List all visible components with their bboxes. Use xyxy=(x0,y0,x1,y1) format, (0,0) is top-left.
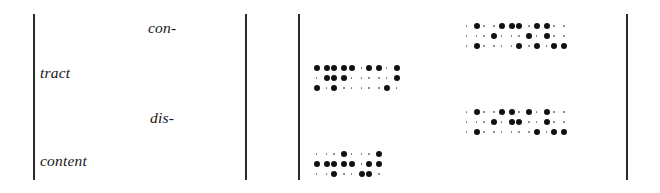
braille-dot-raised-6 xyxy=(561,43,567,49)
braille-dot-raised-1 xyxy=(366,65,372,71)
braille-dot-empty-6 xyxy=(343,173,345,175)
braille-dot-empty-5 xyxy=(563,35,565,37)
braille-dot-empty-6 xyxy=(493,131,495,133)
braille-cell xyxy=(550,108,561,138)
braille-dot-empty-3 xyxy=(466,131,468,133)
braille-dot-empty-1 xyxy=(518,111,520,113)
braille-dot-empty-3 xyxy=(501,45,503,47)
braille-dot-empty-3 xyxy=(483,45,485,47)
braille-cell xyxy=(365,150,376,180)
braille-dot-empty-1 xyxy=(466,111,468,113)
braille-dot-empty-1 xyxy=(368,153,370,155)
braille-cell xyxy=(330,150,341,180)
braille-dot-empty-5 xyxy=(378,77,380,79)
braille-dot-empty-1 xyxy=(553,25,555,27)
braille-dot-empty-4 xyxy=(563,111,565,113)
braille-dot-empty-3 xyxy=(518,131,520,133)
braille-cell xyxy=(312,64,323,94)
braille-dot-raised-2 xyxy=(349,161,355,167)
braille-dot-empty-2 xyxy=(518,35,520,37)
braille-cell xyxy=(312,150,323,180)
braille-example-figure: con- tract dis- content xyxy=(0,0,660,193)
braille-dot-empty-1 xyxy=(333,153,335,155)
braille-dot-empty-6 xyxy=(511,45,513,47)
braille-dot-empty-3 xyxy=(466,45,468,47)
braille-dot-raised-1 xyxy=(314,65,320,71)
braille-dot-empty-6 xyxy=(361,87,363,89)
braille-dot-empty-4 xyxy=(493,111,495,113)
braille-dot-empty-4 xyxy=(361,67,363,69)
braille-dot-raised-2 xyxy=(331,161,337,167)
braille-cell xyxy=(330,64,341,94)
braille-cell xyxy=(347,64,358,94)
braille-dot-empty-5 xyxy=(511,35,513,37)
braille-dot-empty-4 xyxy=(528,25,530,27)
vertical-rule-right xyxy=(626,14,628,180)
braille-dot-empty-4 xyxy=(493,25,495,27)
braille-cell xyxy=(480,22,491,52)
braille-dot-empty-6 xyxy=(493,45,495,47)
braille-dot-empty-2 xyxy=(501,121,503,123)
braille-dot-empty-6 xyxy=(378,87,380,89)
braille-dot-raised-3 xyxy=(366,171,372,177)
braille-dot-empty-2 xyxy=(536,35,538,37)
braille-dot-empty-6 xyxy=(326,173,328,175)
braille-dot-raised-1 xyxy=(534,23,540,29)
braille-dot-empty-3 xyxy=(368,87,370,89)
braille-cell xyxy=(515,108,526,138)
braille-dot-raised-4 xyxy=(376,151,382,157)
braille-dot-empty-3 xyxy=(351,173,353,175)
braille-dot-empty-1 xyxy=(536,111,538,113)
braille-dot-empty-5 xyxy=(476,121,478,123)
braille-group-con-tract-right xyxy=(462,22,561,52)
braille-dot-raised-3 xyxy=(384,85,390,91)
braille-dot-empty-3 xyxy=(351,87,353,89)
braille-cell xyxy=(515,22,526,52)
braille-dot-raised-3 xyxy=(534,43,540,49)
braille-group-dis-content-right xyxy=(462,108,561,138)
braille-dot-empty-6 xyxy=(546,45,548,47)
vertical-rule-third xyxy=(298,14,300,180)
braille-dot-raised-5 xyxy=(394,75,400,81)
braille-dot-empty-1 xyxy=(483,25,485,27)
braille-dot-empty-2 xyxy=(501,35,503,37)
braille-dot-raised-4 xyxy=(394,65,400,71)
braille-dot-raised-2 xyxy=(516,119,522,125)
braille-dot-empty-5 xyxy=(528,121,530,123)
braille-cell xyxy=(532,108,543,138)
braille-cell xyxy=(462,22,473,52)
word-content: content xyxy=(40,153,87,169)
braille-dot-raised-3 xyxy=(331,171,337,177)
braille-dot-raised-3 xyxy=(534,129,540,135)
braille-dot-empty-5 xyxy=(563,121,565,123)
braille-dot-empty-6 xyxy=(326,87,328,89)
braille-dot-empty-4 xyxy=(326,153,328,155)
braille-dot-empty-5 xyxy=(361,163,363,165)
braille-dot-empty-2 xyxy=(386,77,388,79)
braille-dot-raised-6 xyxy=(561,129,567,135)
braille-dot-empty-2 xyxy=(351,77,353,79)
braille-dot-raised-1 xyxy=(349,65,355,71)
braille-dot-empty-2 xyxy=(466,35,468,37)
braille-dot-empty-3 xyxy=(501,131,503,133)
vertical-rule-left xyxy=(33,14,35,180)
braille-dot-empty-6 xyxy=(546,131,548,133)
braille-dot-empty-5 xyxy=(361,77,363,79)
word-dis: dis- xyxy=(150,110,174,126)
braille-dot-raised-5 xyxy=(376,161,382,167)
braille-dot-empty-2 xyxy=(553,121,555,123)
braille-dot-empty-6 xyxy=(343,87,345,89)
braille-dot-empty-4 xyxy=(563,25,565,27)
braille-dot-raised-1 xyxy=(499,23,505,29)
braille-group-dis-content-left xyxy=(312,150,376,180)
braille-dot-raised-3 xyxy=(331,85,337,91)
braille-dot-empty-5 xyxy=(476,35,478,37)
braille-dot-empty-1 xyxy=(316,153,318,155)
braille-dot-raised-1 xyxy=(331,65,337,71)
braille-dot-empty-2 xyxy=(536,121,538,123)
braille-cell xyxy=(382,64,393,94)
braille-dot-empty-3 xyxy=(483,131,485,133)
braille-dot-empty-4 xyxy=(361,153,363,155)
braille-dot-raised-2 xyxy=(366,161,372,167)
braille-dot-empty-2 xyxy=(553,35,555,37)
